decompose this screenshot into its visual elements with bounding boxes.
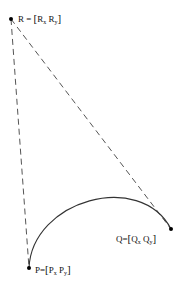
- label-p-a-sub: x: [54, 270, 57, 276]
- label-q: Q=[Qx Qy]: [116, 233, 156, 245]
- label-r-rbracket: ]: [58, 12, 62, 24]
- point-r: [9, 17, 13, 21]
- point-q: [169, 227, 173, 231]
- label-q-a-sub: x: [138, 239, 141, 245]
- label-r-a-sub: x: [43, 19, 46, 25]
- label-p-rbracket: ]: [67, 263, 71, 275]
- point-p: [27, 266, 31, 270]
- label-p: P=[Px Py]: [35, 264, 71, 276]
- label-q-rbracket: ]: [153, 232, 157, 244]
- label-r-head: R: [18, 14, 24, 24]
- label-r-eq: =: [26, 14, 31, 24]
- diagram-canvas: [0, 0, 184, 290]
- dashed-line-r-p: [11, 19, 29, 268]
- label-r: R = [Rx Ry]: [18, 13, 61, 25]
- dashed-line-r-q: [11, 19, 171, 229]
